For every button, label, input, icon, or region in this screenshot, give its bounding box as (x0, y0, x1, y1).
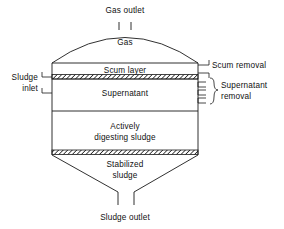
actively-digesting-label-line2: digesting sludge (94, 133, 156, 142)
sludge-inlet-label-line1: Sludge (12, 73, 39, 82)
cone-right-slope (134, 155, 198, 192)
sludge-outlet-label: Sludge outlet (100, 213, 150, 222)
supernatant-label: Supernatant (102, 89, 149, 98)
sludge-inlet-label-line2: inlet (22, 84, 38, 93)
stabilized-sludge-hatch-band (52, 150, 198, 155)
supernatant-removal-stub-3 (198, 98, 206, 103)
scum-removal-label: Scum removal (212, 61, 266, 70)
sludge-inlet-stub-upper (42, 72, 52, 77)
sludge-inlet-stub-lower (42, 88, 52, 93)
supernatant-removal-stub-2 (198, 90, 206, 95)
supernatant-removal-label-line2: removal (221, 92, 251, 101)
supernatant-removal-label-line1: Supernatant (221, 81, 268, 90)
supernatant-removal-brace (210, 78, 218, 104)
stabilized-sludge-label-line2: sludge (112, 171, 137, 180)
digester-schematic-canvas: Gas outlet Gas Scum layer Scum removal S… (0, 0, 284, 229)
supernatant-removal-stub-1 (198, 82, 206, 87)
gas-zone-label: Gas (117, 38, 132, 47)
digester-diagram: Gas outlet Gas Scum layer Scum removal S… (0, 0, 284, 229)
scum-layer-hatch-band (52, 75, 198, 80)
stabilized-sludge-label-line1: Stabilized (106, 160, 143, 169)
actively-digesting-label-line1: Actively (110, 122, 140, 131)
gas-outlet-label: Gas outlet (106, 6, 145, 15)
scum-layer-label: Scum layer (104, 66, 147, 75)
